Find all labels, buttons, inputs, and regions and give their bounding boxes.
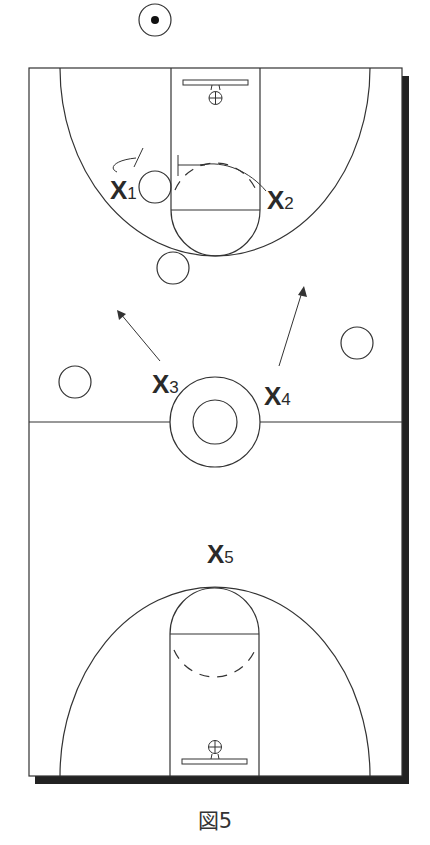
x4-movement-arrow — [279, 292, 302, 366]
defender-x3-label: X3 — [152, 369, 179, 399]
offensive-player-left-wing — [59, 366, 91, 398]
x4-arrowhead-icon — [298, 286, 307, 297]
defender-x1-label: X1 — [110, 175, 137, 205]
hoop-bracket-bottom — [211, 754, 219, 759]
backboard-bottom — [182, 759, 247, 764]
backboard-top — [183, 80, 248, 85]
figure-caption: 図5 — [0, 804, 430, 834]
court-shadow-right — [402, 76, 409, 784]
defender-x2-label: X2 — [267, 185, 294, 215]
defender-x5-label: X5 — [207, 539, 234, 569]
free-throw-circle-bottom-solid — [170, 588, 259, 634]
free-throw-circle-top-dashed — [175, 163, 256, 190]
offensive-player-right-wing — [341, 327, 373, 359]
center-circle-outer — [170, 377, 260, 467]
offensive-player-post — [139, 171, 171, 203]
free-throw-circle-top-solid — [171, 210, 260, 256]
ball-icon — [151, 16, 159, 24]
defender-x4-label: X4 — [264, 381, 291, 411]
x1-cut-path — [113, 158, 136, 172]
court-shadow-bottom — [35, 776, 409, 784]
court-diagram: X1 X2 X3 X4 X5 — [0, 0, 430, 845]
free-throw-circle-bottom-dashed — [174, 650, 255, 677]
center-circle-inner — [193, 400, 237, 444]
x3-movement-arrow — [120, 313, 160, 361]
hoop-bracket-top — [211, 85, 220, 90]
x1-screen-marker — [134, 148, 143, 167]
x2-cut-path — [200, 164, 266, 191]
offensive-player-top-key — [157, 252, 189, 284]
